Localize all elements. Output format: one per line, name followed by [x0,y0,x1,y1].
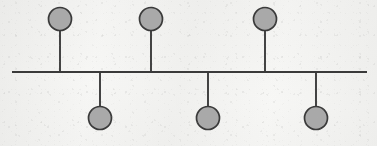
node-circle-4-below[interactable] [197,107,220,130]
node-circle-6-below[interactable] [305,107,328,130]
stem-diagram-figure [0,0,377,146]
node-circle-1-above[interactable] [49,8,72,31]
diagram-canvas [0,0,377,146]
nodes-group [49,8,328,130]
stems-group [60,31,316,107]
node-circle-2-below[interactable] [89,107,112,130]
node-circle-5-above[interactable] [254,8,277,31]
node-circle-3-above[interactable] [140,8,163,31]
